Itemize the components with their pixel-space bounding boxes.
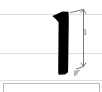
- drawing-page: 1: [0, 0, 102, 92]
- dimension-value-label: 1: [83, 28, 87, 37]
- vertical-dimension-bracket: [70, 8, 96, 70]
- bottom-frame-box: [3, 83, 100, 92]
- scan-speckle-mark: [74, 69, 84, 76]
- section-divider: [0, 80, 102, 81]
